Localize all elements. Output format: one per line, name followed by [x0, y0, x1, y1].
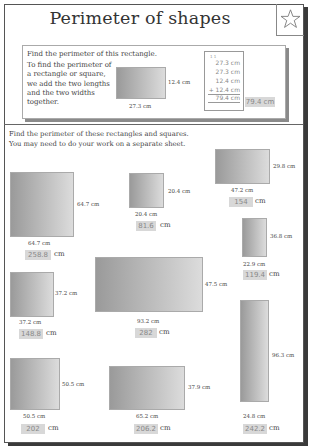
example-width-label: 12.4 cm	[168, 79, 190, 85]
answer-field[interactable]: 81.6	[136, 221, 156, 231]
unit-label: cm	[54, 250, 65, 258]
shape-rectangle-3	[215, 149, 270, 184]
exercise-instruction: You may need to do your work on a separa…	[9, 140, 185, 148]
answer-field[interactable]: 202	[21, 424, 45, 434]
shape-square-1	[10, 172, 74, 237]
answer-field[interactable]: 282	[135, 328, 157, 338]
answer-field[interactable]: 119.4	[243, 270, 267, 280]
side-label: 47.5 cm	[205, 281, 227, 287]
unit-label: cm	[269, 270, 280, 278]
example-instruction: Find the perimeter of this rectangle.	[27, 50, 157, 58]
shape-rectangle-4	[242, 218, 267, 257]
answer-field[interactable]: 148.8	[19, 329, 43, 339]
side-label: 96.3 cm	[272, 352, 294, 358]
side-label: 50.5 cm	[62, 381, 84, 387]
star-icon	[280, 8, 301, 30]
example-length-label: 27.3 cm	[129, 103, 151, 109]
answer-field[interactable]: 206.2	[134, 424, 158, 434]
answer-field[interactable]: 154	[229, 197, 253, 207]
exercise-instruction: Find the perimeter of these rectangles a…	[9, 130, 189, 138]
sum-line	[208, 102, 240, 103]
example-explanation: To find the perimeter of a rectangle or …	[27, 61, 112, 107]
example-rectangle	[116, 67, 166, 99]
calc-line: + 12.4 cm	[209, 86, 240, 93]
unit-label: cm	[255, 197, 266, 205]
side-label: 37.2 cm	[55, 290, 77, 296]
example-answer: 79.4 cm	[245, 97, 275, 107]
calculation-box: 1 1 27.3 cm 27.3 cm 12.4 cm + 12.4 cm 79…	[204, 51, 244, 111]
shape-square-7	[10, 358, 60, 410]
shape-square-2	[129, 173, 164, 208]
bottom-label: 47.2 cm	[231, 187, 253, 193]
unit-label: cm	[269, 424, 280, 432]
bottom-label: 37.2 cm	[19, 319, 41, 325]
shape-square-5	[10, 272, 54, 317]
page-title: Perimeter of shapes	[4, 8, 276, 28]
unit-label: cm	[48, 424, 59, 432]
section-divider	[4, 124, 303, 125]
bottom-label: 50.5 cm	[23, 413, 45, 419]
unit-label: cm	[160, 221, 171, 229]
unit-label: cm	[160, 424, 171, 432]
bottom-label: 65.2 cm	[136, 413, 158, 419]
calc-line: 27.3 cm	[216, 68, 240, 75]
calc-line: 27.3 cm	[216, 59, 240, 66]
unit-label: cm	[46, 329, 57, 337]
unit-label: cm	[159, 328, 170, 336]
bottom-label: 93.2 cm	[137, 318, 159, 324]
bottom-label: 64.7 cm	[28, 240, 50, 246]
calc-total: 79.4 cm	[216, 94, 240, 101]
side-label: 37.9 cm	[188, 384, 210, 390]
star-badge	[276, 4, 304, 36]
calc-line: 12.4 cm	[216, 77, 240, 84]
bottom-label: 24.8 cm	[243, 413, 265, 419]
shape-rectangle-6	[95, 257, 203, 312]
shape-rectangle-8	[109, 366, 185, 410]
side-label: 36.8 cm	[270, 233, 292, 239]
side-label: 64.7 cm	[77, 201, 99, 207]
bottom-label: 20.4 cm	[135, 211, 157, 217]
bottom-label: 22.9 cm	[243, 261, 265, 267]
answer-field[interactable]: 242.2	[243, 424, 267, 434]
side-label: 29.8 cm	[273, 163, 295, 169]
answer-field[interactable]: 258.8	[25, 250, 51, 260]
side-label: 20.4 cm	[168, 188, 190, 194]
shape-rectangle-9	[240, 300, 269, 402]
